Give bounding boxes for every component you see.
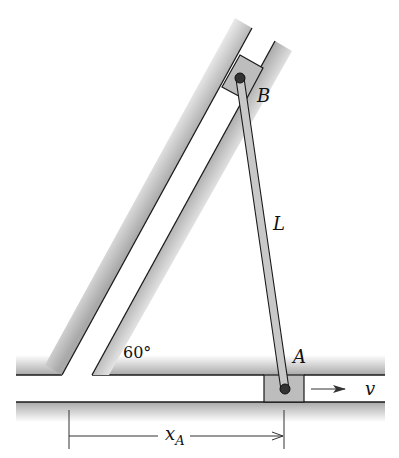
label-l: L <box>272 213 285 234</box>
label-xa: xA <box>165 423 185 448</box>
pin-a <box>280 384 290 394</box>
label-a: A <box>291 346 306 367</box>
rod-l <box>236 78 289 390</box>
lower-rail <box>16 402 385 422</box>
label-v: v <box>365 378 375 399</box>
pin-b <box>235 73 245 83</box>
outer-inclined-wall <box>45 18 252 375</box>
velocity-arrow <box>311 385 346 393</box>
mechanism-diagram: B L 60° A v xA <box>0 0 399 458</box>
label-b: B <box>256 85 270 106</box>
label-angle: 60° <box>123 343 151 362</box>
